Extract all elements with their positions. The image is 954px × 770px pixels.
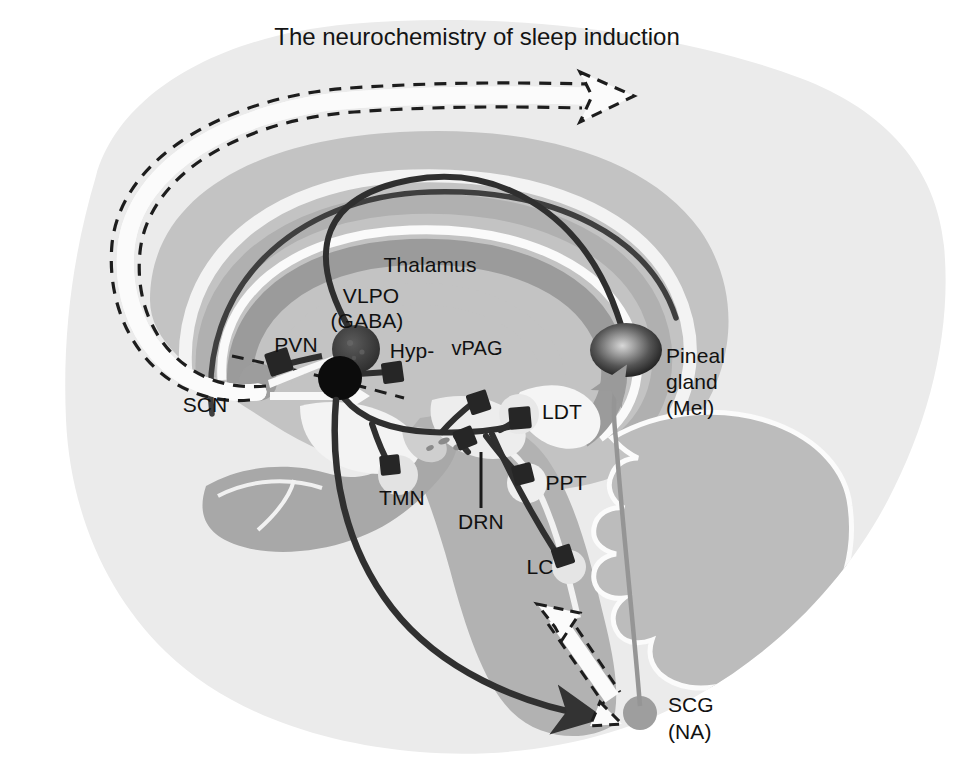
sleep-induction-diagram: The neurochemistry of sleep induction Th… xyxy=(0,0,954,770)
label-ppt: PPT xyxy=(545,471,586,494)
label-hyp: Hyp- xyxy=(390,339,435,362)
label-ldt: LDT xyxy=(542,400,582,423)
label-pineal-3: (Mel) xyxy=(666,396,714,419)
label-pineal-2: gland xyxy=(666,370,718,393)
figure-canvas: The neurochemistry of sleep induction Th… xyxy=(0,0,954,770)
label-scg-1: SCG xyxy=(668,693,714,716)
label-thalamus: Thalamus xyxy=(383,253,476,276)
pineal-gland xyxy=(590,323,662,377)
label-pvn: PVN xyxy=(274,333,317,356)
figure-title: The neurochemistry of sleep induction xyxy=(274,23,680,50)
label-tmn: TMN xyxy=(379,486,425,509)
nucleus-pvn xyxy=(318,356,362,400)
label-lc: LC xyxy=(526,555,553,578)
label-vpag: vPAG xyxy=(451,337,502,359)
label-scn: SCN xyxy=(183,393,228,416)
label-drn: DRN xyxy=(458,510,504,533)
label-vlpo: VLPO xyxy=(343,284,399,307)
label-pineal-1: Pineal xyxy=(666,344,725,367)
label-vlpo-gaba: (GABA) xyxy=(331,309,404,332)
label-scg-2: (NA) xyxy=(668,720,712,743)
